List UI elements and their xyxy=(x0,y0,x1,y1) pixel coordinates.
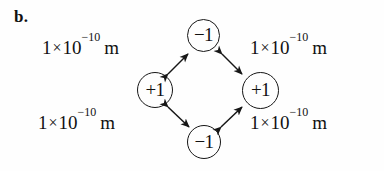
distance-mantissa: 1 xyxy=(250,37,260,58)
part-label: b. xyxy=(14,8,28,25)
arrow-left-to-top-icon xyxy=(168,54,188,74)
charge-node-bottom: −1 xyxy=(187,125,221,159)
arrow-left-to-bottom-icon xyxy=(168,107,189,127)
distance-label-top-right: 1×10−10m xyxy=(250,38,327,57)
distance-unit: m xyxy=(100,37,119,58)
distance-base: 10 xyxy=(271,112,290,133)
distance-label-top-left: 1×10−10m xyxy=(42,38,119,57)
charge-node-left: +1 xyxy=(137,72,173,108)
arrow-bottom-to-right-icon xyxy=(221,107,242,127)
arrow-top-to-right-icon xyxy=(222,54,242,74)
multiplication-sign-icon: × xyxy=(260,114,271,131)
distance-base: 10 xyxy=(59,112,78,133)
distance-mantissa: 1 xyxy=(42,37,52,58)
charge-label: −1 xyxy=(194,132,213,151)
distance-label-bottom-right: 1×10−10m xyxy=(250,113,327,132)
multiplication-sign-icon: × xyxy=(260,39,271,56)
distance-exponent: −10 xyxy=(290,30,309,44)
distance-mantissa: 1 xyxy=(250,112,260,133)
distance-unit: m xyxy=(96,112,115,133)
distance-exponent: −10 xyxy=(290,105,309,119)
distance-exponent: −10 xyxy=(82,30,101,44)
charge-node-top: −1 xyxy=(187,19,220,52)
charge-label: +1 xyxy=(251,80,270,99)
charge-diagram-figure: b. 1×10−10m 1×10−10m 1×10−10m 1×10−10m −… xyxy=(0,0,384,171)
distance-unit: m xyxy=(308,112,327,133)
multiplication-sign-icon: × xyxy=(48,114,59,131)
multiplication-sign-icon: × xyxy=(52,39,63,56)
distance-exponent: −10 xyxy=(78,105,97,119)
distance-base: 10 xyxy=(271,37,290,58)
charge-node-right: +1 xyxy=(242,72,279,109)
distance-unit: m xyxy=(308,37,327,58)
charge-label: −1 xyxy=(194,25,213,44)
charge-label: +1 xyxy=(145,80,164,99)
distance-mantissa: 1 xyxy=(38,112,48,133)
distance-label-bottom-left: 1×10−10m xyxy=(38,113,115,132)
distance-base: 10 xyxy=(63,37,82,58)
